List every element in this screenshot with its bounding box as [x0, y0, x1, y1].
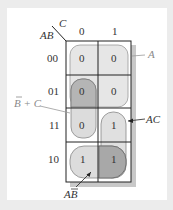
row-header-11: 11 [49, 119, 60, 131]
row-header-01: 01 [48, 85, 59, 97]
col-variable-label: C [59, 17, 67, 29]
cell-11-1: 1 [111, 119, 117, 131]
cell-00-0: 0 [79, 52, 85, 64]
col-header-0: 0 [79, 25, 85, 37]
cell-01-0: 0 [79, 85, 85, 97]
annotation-ac: AC [145, 113, 161, 125]
cell-10-0: 1 [80, 153, 86, 165]
row-header-00: 00 [47, 52, 59, 64]
row-header-10: 10 [48, 153, 60, 165]
cell-11-0: 0 [79, 119, 85, 131]
cell-01-1: 0 [111, 85, 117, 97]
annotation-b-bar-plus-c: B + C [14, 97, 42, 109]
karnaugh-map: C AB 0 1 00 01 11 10 0 0 0 0 0 1 1 1 A B… [0, 0, 173, 210]
annotation-ab-bar: AB [63, 188, 78, 200]
annotation-a: A [147, 48, 155, 60]
cell-00-1: 0 [111, 52, 117, 64]
col-header-1: 1 [112, 25, 118, 37]
cell-10-1: 1 [111, 153, 117, 165]
row-variable-label: AB [39, 29, 54, 41]
